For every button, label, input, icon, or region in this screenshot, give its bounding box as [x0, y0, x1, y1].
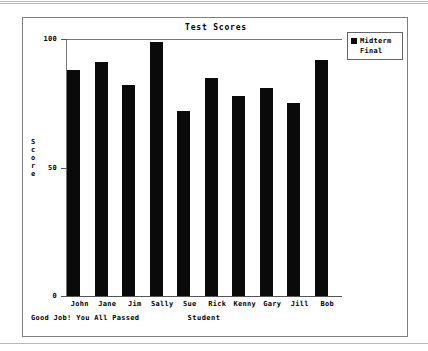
bars-layer: [67, 39, 342, 296]
chart-legend[interactable]: MidtermFinal: [347, 32, 403, 60]
bar-midterm: [232, 96, 245, 296]
legend-entry[interactable]: Midterm: [351, 36, 399, 46]
y-axis-label: Score: [28, 138, 38, 178]
y-axis-label-letter: e: [28, 170, 38, 178]
bar-midterm: [95, 62, 108, 296]
bottom-divider-rule: [0, 343, 428, 344]
y-axis-tick: [61, 296, 67, 297]
legend-entry[interactable]: Final: [351, 46, 399, 56]
y-axis-tick-label: 0: [33, 292, 57, 300]
y-axis-label-letter: c: [28, 146, 38, 154]
y-axis-label-letter: o: [28, 154, 38, 162]
y-axis-label-letter: S: [28, 138, 38, 146]
legend-swatch-icon: [351, 48, 357, 54]
figure-frame: Test Scores 050100 Score JohnJaneJimSall…: [22, 17, 408, 337]
y-axis-label-letter: r: [28, 162, 38, 170]
legend-swatch-icon: [351, 38, 357, 44]
x-axis-tick-label: Bob: [307, 300, 347, 309]
chart-annotation: Good Job! You All Passed: [31, 314, 139, 323]
bar-midterm: [177, 111, 190, 296]
bar-midterm: [287, 103, 300, 296]
top-divider-rule-secondary: [0, 3, 428, 4]
bar-midterm: [260, 88, 273, 296]
x-axis-line: [66, 296, 342, 297]
legend-label: Final: [360, 47, 383, 56]
bar-midterm: [122, 85, 135, 296]
bar-midterm: [67, 70, 80, 296]
chart-screenshot: Test Scores 050100 Score JohnJaneJimSall…: [0, 0, 428, 351]
bar-midterm: [315, 60, 328, 296]
top-divider-rule: [0, 1, 428, 2]
legend-label: Midterm: [360, 37, 392, 46]
y-axis-tick-label: 100: [33, 35, 57, 43]
bar-midterm: [205, 78, 218, 296]
bar-midterm: [150, 42, 163, 296]
